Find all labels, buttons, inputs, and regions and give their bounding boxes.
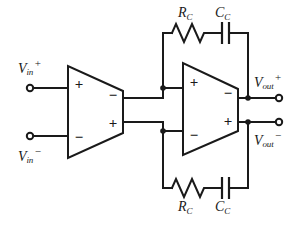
resistor-rc-top-symbol[interactable] [172,24,210,42]
opamp-stage-2-output-bottom-polarity: + [224,113,233,129]
opamp-stage-1-output-top-polarity: − [109,87,118,103]
label-vout-plus: Vout+ [254,72,281,91]
circuit-diagram: + − − + + − − + [0,0,303,225]
junction-stage2-in-pos [160,85,166,91]
opamp-stage-2-input-bottom-polarity: − [190,127,199,143]
label-cc-bottom: CC [215,200,230,216]
terminal-vout-plus[interactable] [276,95,282,101]
schematic-svg: + − − + + − − + [0,0,303,225]
wire-bottom-feedback-left-leg [163,131,172,188]
label-vin-plus: Vin+ [18,58,41,77]
resistor-rc-bottom-symbol[interactable] [172,179,210,197]
terminal-vout-minus[interactable] [276,119,282,125]
opamp-stage-1-input-bottom-polarity: − [75,129,84,145]
junction-vout-plus [245,95,251,101]
junction-vout-minus [245,119,251,125]
terminal-vin-plus[interactable] [27,85,33,91]
wire-stage1-out-neg-to-stage2-in-pos [123,88,183,98]
junction-stage2-in-neg [160,128,166,134]
opamp-stage-2-output-top-polarity: − [224,85,233,101]
wire-stage1-out-pos-to-stage2-in-neg [123,122,183,131]
terminal-vin-minus[interactable] [27,133,33,139]
label-vin-minus: Vin− [18,146,41,165]
opamp-stage-1-output-bottom-polarity: + [109,115,118,131]
label-rc-top: RC [178,6,192,22]
opamp-stage-1-input-top-polarity: + [75,76,84,92]
label-vout-minus: Vout− [254,130,281,149]
label-rc-bottom: RC [178,200,192,216]
label-cc-top: CC [215,6,230,22]
opamp-stage-2-input-top-polarity: + [190,74,199,90]
wire-top-feedback-left-leg [163,33,172,88]
